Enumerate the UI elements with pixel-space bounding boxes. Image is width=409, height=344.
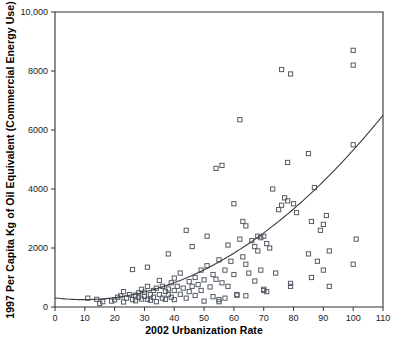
y-tick-label: 10,000 xyxy=(20,7,48,17)
data-point xyxy=(130,267,134,271)
data-point xyxy=(181,286,185,290)
x-axis-ticks: 0102030405060708090100110 xyxy=(52,307,390,323)
y-tick-label: 8000 xyxy=(28,66,48,76)
data-point xyxy=(196,282,200,286)
x-tick-label: 70 xyxy=(259,313,269,323)
data-point xyxy=(220,281,224,285)
x-tick-label: 10 xyxy=(80,313,90,323)
data-point xyxy=(309,275,313,279)
data-point xyxy=(205,234,209,238)
data-point xyxy=(148,293,152,297)
data-point xyxy=(184,228,188,232)
data-point xyxy=(253,279,257,283)
data-point xyxy=(247,271,251,275)
data-point xyxy=(142,294,146,298)
data-point xyxy=(223,296,227,300)
data-points-layer xyxy=(86,48,359,305)
data-point xyxy=(172,276,176,280)
data-point xyxy=(288,72,292,76)
data-point xyxy=(190,244,194,248)
data-point xyxy=(294,211,298,215)
data-point xyxy=(229,259,233,263)
data-point xyxy=(211,295,215,299)
data-point xyxy=(262,288,266,292)
data-point xyxy=(351,63,355,67)
data-point xyxy=(268,246,272,250)
y-tick-label: 2000 xyxy=(28,243,48,253)
y-axis-title: 1997 Per Capita Kg of Oil Equivalent (Co… xyxy=(4,1,16,319)
data-point xyxy=(211,272,215,276)
data-point xyxy=(327,284,331,288)
data-point xyxy=(226,284,230,288)
data-point xyxy=(157,278,161,282)
x-tick-label: 20 xyxy=(110,313,120,323)
data-point xyxy=(202,299,206,303)
data-point xyxy=(232,272,236,276)
data-point xyxy=(280,67,284,71)
data-point xyxy=(324,213,328,217)
data-point xyxy=(309,219,313,223)
axis-frame xyxy=(55,12,383,307)
data-point xyxy=(306,252,310,256)
data-point xyxy=(187,280,191,284)
data-point xyxy=(232,202,236,206)
x-tick-label: 100 xyxy=(346,313,361,323)
data-point xyxy=(113,298,117,302)
y-tick-label: 4000 xyxy=(28,184,48,194)
data-point xyxy=(265,241,269,245)
data-point xyxy=(190,284,194,288)
data-point xyxy=(166,252,170,256)
data-point xyxy=(321,222,325,226)
data-point xyxy=(283,196,287,200)
data-point xyxy=(208,285,212,289)
data-point xyxy=(220,163,224,167)
data-point xyxy=(288,284,292,288)
data-point xyxy=(154,300,158,304)
data-point xyxy=(187,290,191,294)
x-tick-label: 30 xyxy=(139,313,149,323)
y-axis-ticks: 0200040006000800010,000 xyxy=(20,7,55,312)
data-point xyxy=(130,298,134,302)
data-point xyxy=(262,234,266,238)
y-tick-label: 6000 xyxy=(28,125,48,135)
data-point xyxy=(244,262,248,266)
x-tick-label: 80 xyxy=(289,313,299,323)
data-point xyxy=(199,288,203,292)
data-point xyxy=(151,295,155,299)
data-point xyxy=(178,292,182,296)
data-point xyxy=(318,228,322,232)
x-tick-label: 60 xyxy=(229,313,239,323)
data-point xyxy=(193,275,197,279)
data-point xyxy=(241,219,245,223)
data-point xyxy=(214,277,218,281)
data-point xyxy=(172,288,176,292)
x-tick-label: 50 xyxy=(199,313,209,323)
data-point xyxy=(121,290,125,294)
data-point xyxy=(288,281,292,285)
data-point xyxy=(327,249,331,253)
data-point xyxy=(202,278,206,282)
data-point xyxy=(226,243,230,247)
data-point xyxy=(354,237,358,241)
data-point xyxy=(351,143,355,147)
axis-frame-path xyxy=(55,12,383,307)
data-point xyxy=(256,249,260,253)
data-point xyxy=(193,293,197,297)
plot-canvas: 0102030405060708090100110 02000400060008… xyxy=(0,0,409,344)
data-point xyxy=(277,208,281,212)
x-axis-title: 2002 Urbanization Rate xyxy=(145,324,263,336)
data-point xyxy=(306,152,310,156)
x-tick-label: 110 xyxy=(376,313,390,323)
data-point xyxy=(244,294,248,298)
data-point xyxy=(214,166,218,170)
data-point xyxy=(321,268,325,272)
data-point xyxy=(244,224,248,228)
data-point xyxy=(163,297,167,301)
x-tick-label: 40 xyxy=(169,313,179,323)
data-point xyxy=(253,244,257,248)
data-point xyxy=(271,187,275,191)
data-point xyxy=(259,268,263,272)
data-point xyxy=(351,262,355,266)
data-point xyxy=(280,203,284,207)
data-point xyxy=(274,271,278,275)
